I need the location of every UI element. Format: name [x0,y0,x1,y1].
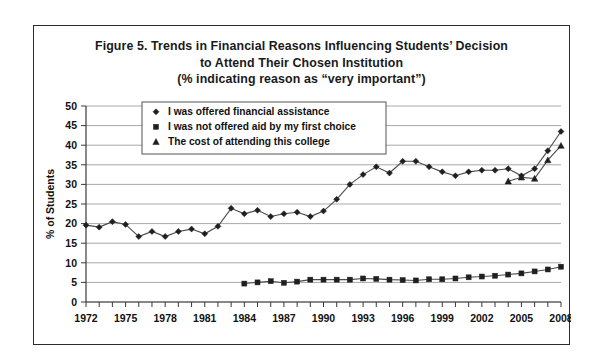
square-marker [321,277,326,282]
square-marker [308,277,313,282]
diamond-marker [241,211,247,217]
y-axis-title: % of Students [44,169,56,239]
diamond-marker [479,167,485,173]
square-marker [453,276,458,281]
square-marker [400,278,405,283]
x-tick-label: 1984 [233,312,257,324]
y-axis: 05101520253035404550 [65,100,86,308]
chart-plot-area: 05101520253035404550 1972197519781981198… [34,94,571,344]
x-tick-label: 1996 [391,312,415,324]
square-marker [295,279,300,284]
square-marker [532,269,537,274]
x-tick-label: 1999 [431,312,455,324]
square-marker [427,277,432,282]
square-marker [479,274,484,279]
x-tick-label: 1972 [74,312,98,324]
diamond-marker [189,226,195,232]
square-marker [519,271,524,276]
diamond-marker [439,169,445,175]
square-marker [281,280,286,285]
figure-title-line-3: (% indicating reason as “very important”… [34,71,569,88]
diamond-marker [492,167,498,173]
x-axis: 1972197519781981198419871990199319961999… [74,302,571,324]
diamond-marker [505,166,511,172]
square-marker [347,277,352,282]
diamond-marker [162,234,168,240]
y-tick-label: 35 [65,159,77,171]
y-tick-label: 0 [71,296,77,308]
square-marker [374,276,379,281]
square-marker [493,273,498,278]
square-marker [545,267,550,272]
diamond-marker [294,209,300,215]
x-tick-label: 1990 [312,312,336,324]
series-3 [505,142,564,184]
diamond-marker [413,158,419,164]
x-tick-label: 2002 [470,312,494,324]
y-tick-label: 45 [65,119,77,131]
diamond-marker [96,224,102,230]
square-marker [255,280,260,285]
square-marker [268,279,273,284]
square-marker [506,272,511,277]
diamond-marker [466,169,472,175]
x-tick-label: 2008 [549,312,571,324]
square-marker [242,281,247,286]
y-tick-label: 30 [65,178,77,190]
y-tick-label: 50 [65,100,77,112]
square-marker [466,275,471,280]
y-tick-label: 40 [65,139,77,151]
y-tick-label: 25 [65,198,77,210]
diamond-marker [83,222,89,228]
figure-frame: Figure 5. Trends in Financial Reasons In… [33,25,570,345]
x-tick-label: 1981 [193,312,217,324]
legend-label: I was offered financial assistance [168,106,330,117]
square-marker [361,276,366,281]
square-marker [154,124,159,129]
line-chart: 05101520253035404550 1972197519781981198… [34,94,571,344]
x-tick-label: 1975 [114,312,138,324]
diamond-marker [255,207,261,213]
square-marker [413,278,418,283]
y-tick-label: 10 [65,257,77,269]
x-tick-label: 1987 [272,312,296,324]
diamond-marker [268,214,274,220]
legend-label: I was not offered aid by my first choice [168,121,356,132]
figure-title: Figure 5. Trends in Financial Reasons In… [34,26,569,88]
diamond-marker [281,211,287,217]
x-tick-label: 1978 [153,312,177,324]
y-tick-label: 5 [71,276,77,288]
y-axis-title-text: % of Students [44,169,56,239]
diamond-marker [149,228,155,234]
square-marker [387,277,392,282]
square-marker [559,264,564,269]
square-marker [334,277,339,282]
diamond-marker [452,173,458,179]
figure-title-line-1: Figure 5. Trends in Financial Reasons In… [34,38,569,55]
diamond-marker [175,228,181,234]
diamond-marker [202,231,208,237]
diamond-marker [307,214,313,220]
figure-title-line-2: to Attend Their Chosen Institution [34,55,569,72]
y-tick-label: 20 [65,217,77,229]
y-tick-label: 15 [65,237,77,249]
x-tick-label: 1993 [351,312,375,324]
chart-legend: I was offered financial assistanceI was … [142,102,386,154]
x-tick-label: 2005 [510,312,534,324]
legend-label: The cost of attending this college [168,136,330,147]
square-marker [440,277,445,282]
